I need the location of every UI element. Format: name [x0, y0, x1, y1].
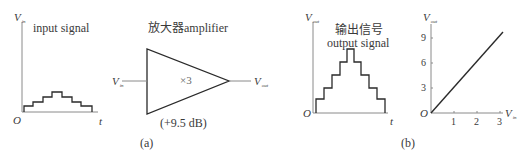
- amplifier-input-label: Vin: [112, 76, 124, 88]
- x-tick-3: 3: [497, 117, 502, 127]
- transfer-origin-label: O: [420, 108, 428, 119]
- transfer-plot-axes: [431, 24, 503, 113]
- transfer-line: [431, 32, 503, 113]
- input-staircase: [24, 92, 92, 112]
- amplifier-gain-label: ×3: [180, 75, 192, 86]
- panel-a-label: (a): [140, 137, 153, 149]
- output-staircase: [316, 49, 385, 113]
- amplifier-db-label: (+9.5 dB): [160, 117, 207, 129]
- input-signal-title: input signal: [33, 22, 89, 34]
- y-tick-9: 9: [421, 33, 426, 43]
- amplifier-output-label: Vout: [254, 76, 268, 88]
- output-signal-title-en: output signal: [327, 37, 389, 49]
- transfer-x-axis-label: Vin: [505, 108, 517, 120]
- x-tick-2: 2: [474, 117, 479, 127]
- input-x-axis-label: t: [99, 116, 102, 127]
- y-tick-3: 3: [421, 83, 426, 93]
- transfer-y-axis-label: Vout: [423, 12, 437, 24]
- output-y-axis-label: Vout: [305, 12, 319, 24]
- x-tick-1: 1: [451, 117, 456, 127]
- output-x-axis-label: t: [390, 116, 393, 127]
- output-signal-title-cn: 输出信号: [335, 24, 383, 36]
- y-tick-6: 6: [421, 58, 426, 68]
- amplifier-title: 放大器amplifier: [148, 22, 228, 34]
- panel-b-label: (b): [401, 137, 415, 149]
- output-origin-label: O: [303, 108, 311, 119]
- input-y-axis-label: Vin: [14, 12, 26, 24]
- input-origin-label: O: [13, 115, 21, 126]
- input-plot-axes: [22, 22, 98, 112]
